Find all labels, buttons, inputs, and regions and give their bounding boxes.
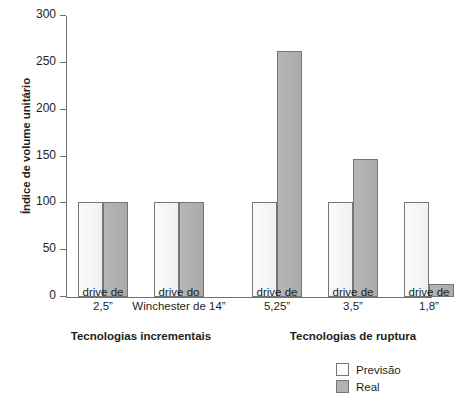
bar-real	[353, 159, 378, 297]
cut-off-caption	[2, 398, 432, 406]
x-group-label: Tecnologias incrementais	[31, 330, 251, 342]
x-category-label: drive de1,8”	[374, 286, 458, 313]
y-tick-label: 150	[36, 148, 56, 162]
x-group-label: Tecnologias de ruptura	[243, 330, 458, 342]
bar-group	[78, 16, 128, 297]
bar-previsao	[78, 202, 103, 297]
bar-real	[103, 202, 128, 297]
bar-real	[179, 202, 204, 297]
previsao-swatch-icon	[336, 363, 349, 376]
bar-group	[404, 16, 454, 297]
bar-previsao	[404, 202, 429, 297]
y-tick-label: 250	[36, 54, 56, 68]
y-tick-label: 300	[36, 7, 56, 21]
bar-previsao	[252, 202, 277, 297]
x-category-label-line2: Winchester de 14”	[124, 300, 234, 314]
legend-item-previsao: Previsão	[336, 362, 440, 377]
bar-group	[252, 16, 302, 297]
bar-previsao	[328, 202, 353, 297]
legend-item-real: Real	[336, 379, 440, 394]
x-category-label-line1: drive do	[124, 286, 234, 300]
y-tick: 200	[60, 109, 66, 110]
legend: Previsão Real	[336, 362, 440, 396]
y-tick: 300	[60, 15, 66, 16]
bar-group	[154, 16, 204, 297]
legend-label-previsao: Previsão	[356, 364, 401, 376]
y-tick-label: 200	[36, 101, 56, 115]
x-category-label-line2: 1,8”	[374, 300, 458, 314]
y-tick-label: 50	[43, 241, 56, 255]
legend-label-real: Real	[356, 381, 380, 393]
bar-group	[328, 16, 378, 297]
y-axis-line	[66, 16, 67, 297]
y-tick: 250	[60, 62, 66, 63]
real-swatch-icon	[336, 380, 349, 393]
plot-area: 300250200150100500	[66, 16, 432, 297]
x-category-label: drive doWinchester de 14”	[124, 286, 234, 313]
y-tick-label: 100	[36, 194, 56, 208]
x-category-label-line1: drive de	[374, 286, 458, 300]
y-tick: 50	[60, 249, 66, 250]
y-axis-title: Índice de volume unitário	[20, 26, 32, 266]
y-tick: 100	[60, 202, 66, 203]
bar-real	[277, 51, 302, 297]
bar-previsao	[154, 202, 179, 297]
y-tick: 150	[60, 156, 66, 157]
